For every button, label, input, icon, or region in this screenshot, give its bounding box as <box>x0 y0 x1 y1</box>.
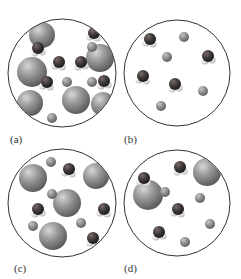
small-sphere-particle <box>205 219 215 229</box>
large-sphere-particle <box>19 164 47 192</box>
panel-b <box>124 20 230 126</box>
small-sphere-particle <box>198 86 208 96</box>
oxygen-atom <box>202 50 214 62</box>
small-sphere-particle <box>162 52 172 62</box>
water-molecule <box>97 75 111 90</box>
water-molecule <box>61 163 75 178</box>
small-sphere-particle <box>195 193 205 203</box>
oxygen-atom <box>87 232 99 244</box>
oxygen-atom <box>41 76 53 88</box>
small-sphere-particle <box>156 101 166 111</box>
water-molecule <box>135 70 149 85</box>
oxygen-atom <box>98 203 110 215</box>
small-sphere-particle <box>180 237 190 247</box>
oxygen-atom <box>172 203 184 215</box>
panel-label-b: (b) <box>124 133 137 146</box>
large-sphere-particle <box>39 222 67 250</box>
small-sphere-particle <box>179 32 189 42</box>
water-molecule <box>173 161 187 176</box>
oxygen-atom <box>75 56 87 68</box>
small-sphere-particle <box>160 187 170 197</box>
large-sphere-particle <box>53 189 81 217</box>
small-sphere-particle <box>28 221 38 231</box>
oxygen-atom <box>137 70 149 82</box>
large-sphere-particle <box>17 90 43 116</box>
small-sphere-particle <box>47 189 57 199</box>
oxygen-atom <box>98 75 110 87</box>
water-molecule <box>51 56 65 71</box>
water-molecule <box>170 203 184 218</box>
large-sphere-particle <box>83 163 109 189</box>
oxygen-atom <box>32 203 44 215</box>
panel-c <box>8 149 116 257</box>
panel-label-a: (a) <box>10 133 23 146</box>
water-molecule <box>142 33 156 48</box>
panel-label-d: (d) <box>124 262 137 275</box>
oxygen-atom <box>53 56 65 68</box>
small-sphere-particle <box>87 77 97 87</box>
oxygen-atom <box>144 33 156 45</box>
water-molecule <box>152 226 166 241</box>
oxygen-atom <box>169 78 181 90</box>
water-molecule <box>201 50 215 65</box>
small-sphere-particle <box>87 42 97 52</box>
panel-a <box>8 19 116 127</box>
oxygen-atom <box>32 42 44 54</box>
large-sphere-particle <box>193 158 221 186</box>
small-sphere-particle <box>62 77 72 87</box>
small-sphere-particle <box>47 113 57 123</box>
small-sphere-particle <box>76 218 86 228</box>
oxygen-atom <box>174 161 186 173</box>
small-sphere-particle <box>46 157 56 167</box>
panel-d <box>124 150 230 256</box>
oxygen-atom <box>63 163 75 175</box>
particle-diagram-figure: (a) (b) (c) (d) <box>0 0 241 279</box>
oxygen-atom <box>138 172 150 184</box>
water-molecule <box>168 78 182 93</box>
water-molecule <box>86 232 100 247</box>
panel-label-c: (c) <box>14 262 27 275</box>
water-molecule <box>96 203 110 218</box>
water-molecule <box>31 203 45 218</box>
large-sphere-particle <box>62 86 90 114</box>
oxygen-atom <box>153 226 165 238</box>
